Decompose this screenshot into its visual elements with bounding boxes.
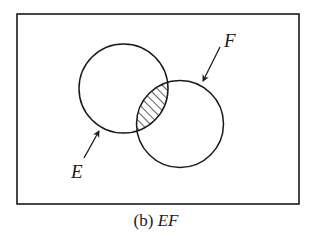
set-f-label: F (223, 30, 236, 51)
set-e-arrow-icon (84, 131, 99, 158)
caption-expression: EF (157, 211, 179, 230)
figure-caption: (b) EF (134, 211, 179, 230)
caption-prefix: (b) (134, 211, 158, 230)
venn-diagram: E F (b) EF (0, 0, 313, 249)
set-f-arrow-icon (203, 47, 220, 81)
set-e-label: E (70, 161, 83, 182)
